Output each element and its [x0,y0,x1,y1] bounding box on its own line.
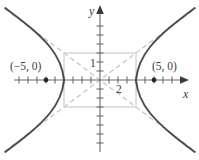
x-axis-label: x [183,88,188,100]
x-axis [14,76,189,84]
focus-dot-right [152,78,157,83]
right-focus-label: (5, 0) [152,61,177,73]
y-unit-label: 1 [90,58,96,70]
y-axis-label: y [89,5,94,17]
left-focus-label: (−5, 0) [10,61,41,73]
focus-dot-left [44,78,49,83]
y-axis-arrow-icon [96,5,104,14]
x-unit-label: 2 [116,84,122,96]
graph-canvas [0,0,199,160]
x-axis-arrow-icon [180,76,189,84]
hyperbola-figure: y x (−5, 0) (5, 0) 1 2 [0,0,199,160]
